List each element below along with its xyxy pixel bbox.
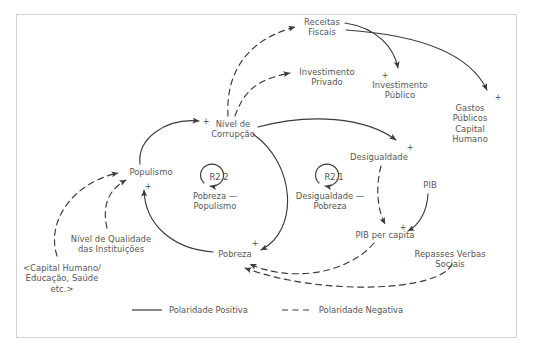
loop-id-r22[interactable]: R2.2 [209, 172, 228, 182]
polarity-nivel-corrupcao: + [203, 118, 210, 126]
node-pib[interactable]: PIB [423, 180, 436, 190]
node-capital-humano[interactable]: <Capital Humano/ Educação, Saúde etc.> [23, 263, 101, 294]
loop-label-r22: Pobreza — Populismo [193, 191, 237, 212]
loop-id-r21[interactable]: R2.1 [324, 172, 343, 182]
legend: Polaridade Positiva Polaridade Negativa [0, 305, 535, 315]
node-desigualdade[interactable]: Desigualdade [350, 152, 408, 162]
polarity-populismo: + [145, 183, 152, 191]
polarity-investimento-publico: + [382, 72, 389, 80]
node-repasses-verbas-sociais[interactable]: Repasses Verbas Sociais [414, 249, 485, 270]
node-nivel-qualidade-instituicoes[interactable]: Nível de Qualidade das Instituições [71, 234, 151, 255]
polarity-gastos-publicos: + [495, 94, 502, 102]
polarity-pib-per-capita: + [400, 224, 407, 232]
node-pobreza[interactable]: Pobreza [218, 249, 251, 259]
diagram-canvas: Receitas Fiscais Investimento Privado In… [0, 0, 535, 352]
loop-label-r21: Desigualdade — Pobreza [296, 191, 364, 212]
legend-solid-line-icon [132, 307, 162, 313]
polarity-desigualdade: + [407, 144, 414, 152]
node-investimento-publico[interactable]: Investimento Público [372, 80, 428, 101]
node-populismo[interactable]: Populismo [129, 167, 172, 177]
node-receitas-fiscais[interactable]: Receitas Fiscais [304, 17, 340, 38]
legend-label-positive: Polaridade Positiva [169, 305, 248, 315]
legend-item-positive: Polaridade Positiva [132, 305, 248, 315]
node-gastos-publicos[interactable]: Gastos Públicos Capital Humano [438, 103, 503, 144]
node-nivel-corrupcao[interactable]: Nível de Corrupção [211, 119, 255, 140]
legend-item-negative: Polaridade Negativa [282, 305, 403, 315]
polarity-pobreza: + [252, 240, 259, 248]
node-investimento-privado[interactable]: Investimento Privado [299, 67, 355, 88]
legend-dashed-line-icon [282, 307, 312, 313]
legend-label-negative: Polaridade Negativa [319, 305, 403, 315]
